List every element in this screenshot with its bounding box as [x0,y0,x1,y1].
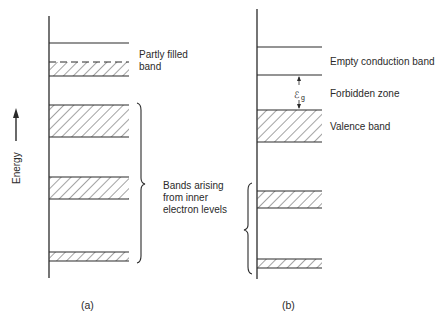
partly-filled-label-1: Partly filled [139,49,188,60]
panel-b: ℰ g Empty conduction band Forbidden zone… [244,9,435,311]
forbidden-zone-label: Forbidden zone [330,88,400,99]
panel-a: Partly filled band Bands arising from in… [49,16,227,311]
inner-bands-label-1: Bands arising [163,180,224,191]
gap-arrow-down-icon [297,104,301,109]
partly-filled-label-2: band [139,61,161,72]
panel-a-partly-filled-band [49,62,129,76]
energy-label: Energy [11,152,22,184]
conduction-band-label: Empty conduction band [330,56,435,67]
panel-a-inner-band-3 [49,252,129,261]
inner-bands-label-3: electron levels [163,204,227,215]
panel-a-inner-band-1 [49,105,129,137]
panel-b-caption: (b) [282,299,295,311]
energy-band-diagram: Energy Par [0,0,444,322]
gap-symbol: ℰ [294,90,300,100]
panel-b-inner-band-1 [257,191,322,208]
energy-arrowhead-icon [13,108,19,118]
gap-arrow-up-icon [297,76,301,81]
panel-b-inner-band-2 [257,259,322,268]
inner-bands-label-2: from inner [163,192,209,203]
gap-subscript: g [301,94,305,102]
panel-b-brace [244,183,252,274]
energy-axis: Energy [11,108,22,184]
band-gap-indicator: ℰ g [294,76,305,109]
panel-a-inner-band-2 [49,177,129,199]
valence-band-label: Valence band [330,121,390,132]
panel-a-brace [137,103,145,263]
panel-a-caption: (a) [81,299,94,311]
valence-band [257,110,322,142]
